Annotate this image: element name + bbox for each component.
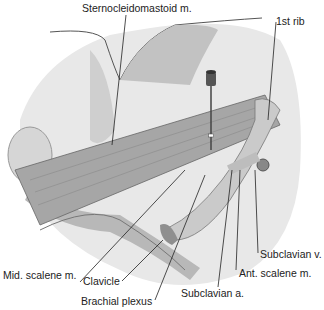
anatomy-illustration <box>0 0 324 310</box>
label-subclavian-v: Subclavian v. <box>260 249 322 260</box>
label-subclavian-a: Subclavian a. <box>181 288 244 299</box>
label-ant-scalene: Ant. scalene m. <box>239 268 311 279</box>
label-brachial-plexus: Brachial plexus <box>81 296 152 307</box>
label-sternocleidomastoid: Sternocleidomastoid m. <box>82 3 192 14</box>
label-first-rib: 1st rib <box>276 16 305 27</box>
label-clavicle: Clavicle <box>83 276 120 287</box>
needle-hub <box>206 72 216 86</box>
label-mid-scalene: Mid. scalene m. <box>3 270 77 281</box>
